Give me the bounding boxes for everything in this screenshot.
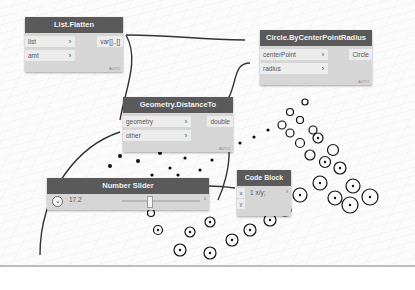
node-title: Number Slider	[47, 178, 209, 194]
node-title: Circle.ByCenterPointRadius	[260, 30, 372, 46]
port-label: centerPoint	[263, 51, 296, 58]
code-editor[interactable]: 1 x/y;	[250, 189, 266, 196]
output-port[interactable]: double	[207, 116, 233, 127]
slider-track[interactable]	[122, 200, 200, 202]
port-label: other	[126, 132, 141, 139]
output-port[interactable]: Circle	[349, 49, 372, 60]
lacing-label: AUTO	[109, 66, 120, 71]
port-label: amt	[28, 52, 39, 59]
input-port-x[interactable]: x	[237, 188, 245, 198]
node-geometry-distance-to[interactable]: Geometry.DistanceTo geometry › other › d…	[123, 97, 233, 152]
chevron-right-icon: ›	[322, 63, 324, 74]
chevron-right-icon: ›	[69, 50, 71, 61]
node-title: List.Flatten	[25, 17, 123, 33]
input-port-geometry[interactable]: geometry ›	[123, 116, 191, 127]
chevron-right-icon: ›	[185, 130, 187, 141]
port-label: list	[28, 38, 36, 45]
chevron-right-icon: ›	[69, 36, 71, 47]
chevron-right-icon[interactable]: ›	[204, 195, 206, 202]
chevron-right-icon: ›	[322, 49, 324, 60]
slider-thumb[interactable]	[147, 196, 153, 208]
input-port-list[interactable]: list ›	[25, 36, 75, 47]
node-circle-by-center-point-radius[interactable]: Circle.ByCenterPointRadius centerPoint ›…	[260, 30, 372, 85]
input-port-radius[interactable]: radius ›	[260, 63, 328, 74]
node-title: Geometry.DistanceTo	[123, 97, 233, 113]
chevron-right-icon: ›	[185, 116, 187, 127]
slider-value: 17.2	[69, 196, 82, 203]
node-code-block[interactable]: Code Block x y 1 x/y; ›	[237, 170, 291, 216]
lacing-label: AUTO	[219, 146, 230, 151]
port-label: radius	[263, 65, 281, 72]
node-list-flatten[interactable]: List.Flatten list › amt › var[]..[] AUTO	[25, 17, 123, 72]
slider-row: ⌄ 17.2 ›	[47, 194, 209, 208]
chevron-right-icon[interactable]: ›	[286, 188, 288, 195]
input-port-centerpoint[interactable]: centerPoint ›	[260, 49, 328, 60]
input-port-amt[interactable]: amt ›	[25, 50, 75, 61]
lacing-label: AUTO	[358, 79, 369, 84]
port-label: geometry	[126, 118, 153, 125]
graph-canvas[interactable]: List.Flatten list › amt › var[]..[] AUTO…	[0, 0, 415, 265]
expand-icon[interactable]: ⌄	[52, 196, 63, 207]
node-number-slider[interactable]: Number Slider ⌄ 17.2 ›	[47, 178, 209, 210]
input-port-other[interactable]: other ›	[123, 130, 191, 141]
output-port[interactable]: var[]..[]	[97, 36, 123, 47]
input-port-y[interactable]: y	[237, 199, 245, 209]
bottom-bar	[0, 265, 415, 290]
node-title: Code Block	[237, 170, 291, 186]
